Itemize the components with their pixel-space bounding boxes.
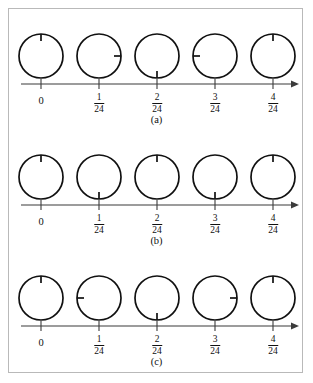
row-a-caption: (a) — [9, 115, 304, 126]
figure-row-a: 0124224324424 (a) — [9, 12, 304, 130]
row-a-diagram — [9, 12, 304, 130]
figure-row-b: 0124224324424 (b) — [9, 133, 304, 251]
row-b-caption: (b) — [9, 236, 304, 247]
row-c-caption: (c) — [9, 357, 304, 368]
row-c-diagram — [9, 254, 304, 372]
row-b-diagram — [9, 133, 304, 251]
figure-row-c: 0124224324424 (c) — [9, 254, 304, 372]
figure-panel: 0124224324424 (a) 0124224324424 (b) 0124… — [8, 8, 303, 373]
